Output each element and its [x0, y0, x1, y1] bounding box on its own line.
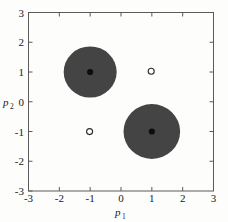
y-tick-label-neg2: -2	[15, 155, 24, 167]
center-dot-upper-left	[87, 69, 93, 75]
open-marker-lower-left	[87, 129, 93, 135]
y-tick-label-3: 3	[19, 7, 25, 19]
y-tick-label-neg1: -1	[15, 126, 24, 138]
y-tick-label-1: 1	[19, 66, 25, 78]
open-marker-upper-right	[148, 68, 154, 74]
x-tick-label-0: 0	[118, 192, 124, 204]
plot-canvas: 3 2 1 0 -1 -2 -3 -3 -2 -1 0 1 2 3 p 2 p …	[0, 0, 228, 222]
figure-background	[0, 0, 228, 222]
x-tick-label-1: 1	[149, 192, 155, 204]
x-tick-label-2: 2	[180, 192, 186, 204]
x-tick-label-neg1: -1	[86, 192, 95, 204]
scatter-plot-figure: 3 2 1 0 -1 -2 -3 -3 -2 -1 0 1 2 3 p 2 p …	[0, 0, 228, 222]
y-axis-title-base: p	[2, 96, 9, 108]
y-tick-label-0: 0	[19, 96, 25, 108]
center-dot-lower-right	[149, 128, 155, 134]
x-tick-label-3: 3	[211, 192, 217, 204]
x-tick-label-neg3: -3	[24, 192, 34, 204]
y-axis-title-subscript: 2	[10, 102, 14, 111]
x-axis-title-subscript: 1	[122, 212, 126, 221]
y-tick-label-2: 2	[19, 36, 25, 48]
x-tick-label-neg2: -2	[55, 192, 64, 204]
x-axis-title-base: p	[114, 206, 121, 218]
